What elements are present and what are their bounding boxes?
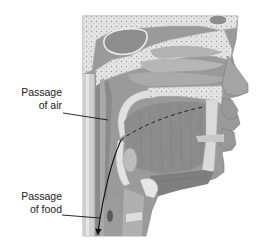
frontal-sinus: [209, 15, 227, 25]
label-passage-of-food: Passage of food: [4, 190, 62, 216]
label-food-line1: Passage: [4, 190, 62, 203]
tonsil: [123, 148, 137, 172]
label-passage-of-air: Passage of air: [4, 86, 62, 112]
label-air-line2: of air: [4, 99, 62, 112]
anatomy-figure: Passage of air Passage of food: [0, 0, 267, 248]
label-food-line2: of food: [4, 203, 62, 216]
esophagus-lumen: [107, 210, 113, 222]
larynx: [122, 188, 144, 236]
label-air-line1: Passage: [4, 86, 62, 99]
